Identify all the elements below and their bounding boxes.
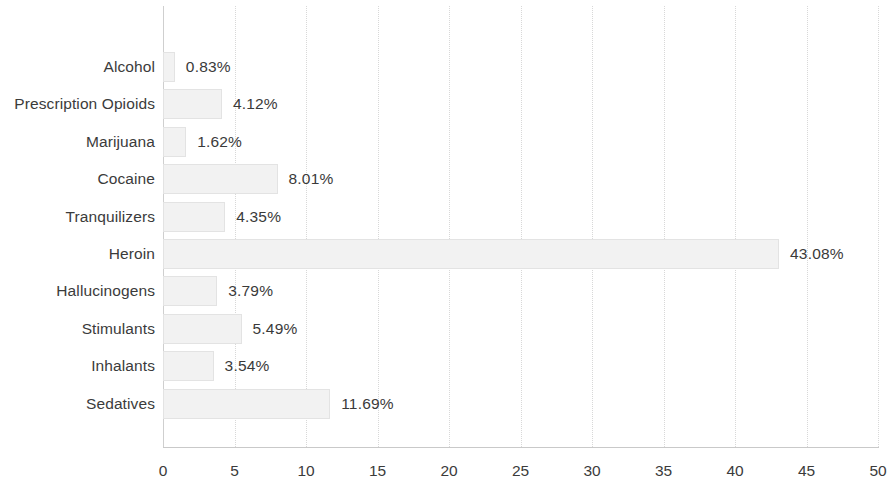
bar-row: 1.62% bbox=[163, 123, 878, 161]
bar-value-label: 11.69% bbox=[341, 395, 394, 413]
x-tick-label-5: 5 bbox=[230, 462, 239, 480]
x-tick-label-45: 45 bbox=[798, 462, 815, 480]
bar-row: 8.01% bbox=[163, 160, 878, 198]
category-label-marijuana: Marijuana bbox=[0, 123, 155, 161]
bar-row: 5.49% bbox=[163, 310, 878, 348]
category-label-stimulants: Stimulants bbox=[0, 310, 155, 348]
bar-value-label: 4.35% bbox=[236, 208, 281, 226]
bar-value-label: 5.49% bbox=[253, 320, 298, 338]
bar-row: 0.83% bbox=[163, 48, 878, 86]
category-label-inhalants: Inhalants bbox=[0, 347, 155, 385]
bar-row: 3.54% bbox=[163, 347, 878, 385]
category-label-tranquilizers: Tranquilizers bbox=[0, 198, 155, 236]
x-tick-label-30: 30 bbox=[583, 462, 600, 480]
x-tick-label-10: 10 bbox=[297, 462, 314, 480]
x-tick-label-20: 20 bbox=[440, 462, 457, 480]
category-label-cocaine: Cocaine bbox=[0, 160, 155, 198]
plot-area: 0.83%4.12%1.62%8.01%4.35%43.08%3.79%5.49… bbox=[163, 6, 878, 447]
bar-value-label: 4.12% bbox=[233, 95, 278, 113]
bar-value-label: 1.62% bbox=[197, 133, 242, 151]
bar-hallucinogens bbox=[163, 276, 217, 306]
bar-stimulants bbox=[163, 314, 242, 344]
bar-row: 11.69% bbox=[163, 385, 878, 423]
gridline-50 bbox=[878, 6, 879, 447]
x-axis-tick-labels: 05101520253035404550 bbox=[0, 462, 893, 486]
x-tick-label-35: 35 bbox=[655, 462, 672, 480]
bar-value-label: 3.54% bbox=[225, 357, 270, 375]
bar-tranquilizers bbox=[163, 202, 225, 232]
bar-sedatives bbox=[163, 389, 330, 419]
bar-row: 4.12% bbox=[163, 85, 878, 123]
x-tick-label-15: 15 bbox=[369, 462, 386, 480]
bar-row: 43.08% bbox=[163, 235, 878, 273]
x-tick-label-0: 0 bbox=[159, 462, 168, 480]
bar-rows: 0.83%4.12%1.62%8.01%4.35%43.08%3.79%5.49… bbox=[163, 6, 878, 447]
category-label-hallucinogens: Hallucinogens bbox=[0, 272, 155, 310]
bar-prescription-opioids bbox=[163, 89, 222, 119]
bar-chart: 0.83%4.12%1.62%8.01%4.35%43.08%3.79%5.49… bbox=[0, 0, 893, 493]
x-tick-label-40: 40 bbox=[726, 462, 743, 480]
category-axis-labels: AlcoholPrescription OpioidsMarijuanaCoca… bbox=[0, 6, 155, 447]
category-label-alcohol: Alcohol bbox=[0, 48, 155, 86]
bar-heroin bbox=[163, 239, 779, 269]
bar-alcohol bbox=[163, 52, 175, 82]
bar-value-label: 3.79% bbox=[228, 282, 273, 300]
category-label-prescription-opioids: Prescription Opioids bbox=[0, 85, 155, 123]
category-label-sedatives: Sedatives bbox=[0, 385, 155, 423]
bar-row: 4.35% bbox=[163, 198, 878, 236]
x-tick-label-50: 50 bbox=[869, 462, 886, 480]
bar-value-label: 8.01% bbox=[289, 170, 334, 188]
x-tick-label-25: 25 bbox=[512, 462, 529, 480]
x-axis-line bbox=[163, 447, 879, 448]
bar-inhalants bbox=[163, 351, 214, 381]
category-label-heroin: Heroin bbox=[0, 235, 155, 273]
bar-cocaine bbox=[163, 164, 278, 194]
bar-marijuana bbox=[163, 127, 186, 157]
bar-value-label: 43.08% bbox=[790, 245, 844, 263]
bar-value-label: 0.83% bbox=[186, 58, 231, 76]
bar-row: 3.79% bbox=[163, 272, 878, 310]
